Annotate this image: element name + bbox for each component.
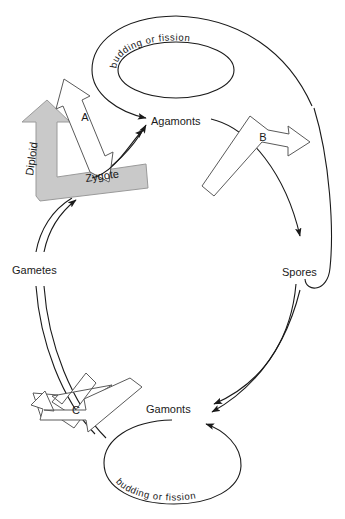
life-cycle-diagram: budding or fission budding or fission Di… (0, 0, 345, 519)
transition-c-block-arrow (31, 373, 142, 432)
flow-spores-uturn (305, 108, 331, 288)
transition-a-block-arrow (56, 79, 113, 182)
outer-cycle-arc (176, 16, 312, 106)
flow-gametes-to-zygote (36, 198, 76, 252)
flow-secondary-into-gamonts (212, 290, 300, 412)
diagram-canvas: budding or fission budding or fission Di… (0, 0, 345, 519)
stage-label-gamonts: Gamonts (146, 403, 191, 415)
flow-spores-to-gamonts (214, 284, 296, 404)
stage-label-spores: Spores (282, 266, 317, 278)
stage-label-gametes: Gametes (12, 264, 57, 276)
transition-b-block-arrow (202, 116, 310, 196)
transition-c-label: C (72, 404, 80, 416)
transition-a-label: A (81, 111, 89, 123)
transition-b-label: B (259, 131, 266, 143)
bottom-budding-or-fission-label: budding or fission (114, 476, 197, 503)
stage-label-agamonts: Agamonts (151, 115, 201, 127)
